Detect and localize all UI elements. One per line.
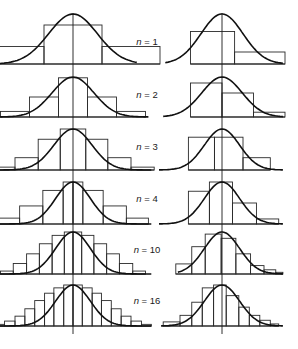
n-value: = 1 <box>142 36 158 47</box>
panel-right-n4 <box>159 172 283 226</box>
histogram-bar <box>94 244 107 274</box>
n-label: n = 3 <box>136 141 157 152</box>
histogram-bar <box>39 244 52 274</box>
panel-left-n4 <box>0 172 151 226</box>
panel-right-n2 <box>163 66 285 120</box>
n-value: = 3 <box>142 141 158 152</box>
normal-curve <box>0 232 151 274</box>
panel-left-n10 <box>0 226 151 278</box>
histogram-bar <box>52 235 64 274</box>
histogram-bar <box>73 182 83 224</box>
histogram-bar <box>88 97 117 117</box>
normal-curve <box>163 77 283 117</box>
n-label: n = 10 <box>134 244 161 255</box>
histogram-bar <box>38 139 60 170</box>
normal-curve <box>0 77 148 117</box>
n-label: n = 16 <box>134 295 161 306</box>
n-label: n = 1 <box>136 36 157 47</box>
histogram-bar <box>30 97 59 117</box>
histogram-bar <box>0 47 44 65</box>
sampling-distribution-figure: n = 1n = 2n = 3n = 4n = 10n = 16 <box>0 0 298 349</box>
histogram-bar <box>191 32 235 65</box>
n-labels: n = 1n = 2n = 3n = 4n = 10n = 16 <box>134 36 161 306</box>
n-label: n = 4 <box>136 193 157 204</box>
histogram-bar <box>188 137 214 170</box>
histogram-bar <box>64 285 73 326</box>
panel-left-n2 <box>0 66 148 120</box>
histogram-bar <box>73 232 82 274</box>
histogram-bar <box>86 139 108 170</box>
normal-curve <box>0 129 151 170</box>
panel-right-n10 <box>176 226 283 278</box>
n-label: n = 2 <box>136 89 157 100</box>
histogram-bar <box>205 234 221 274</box>
histogram-bar <box>73 285 82 326</box>
histogram-bar <box>82 288 92 326</box>
histogram-bar <box>221 238 236 274</box>
histogram-bar <box>54 288 64 326</box>
histogram-bar <box>226 296 239 326</box>
panel-left-n3 <box>0 120 154 172</box>
histogram-bar <box>43 190 63 224</box>
n-value: = 2 <box>142 89 158 100</box>
panel-right-n1 <box>165 13 285 66</box>
panel-right-n3 <box>159 120 283 172</box>
histogram-bar <box>82 235 94 274</box>
histogram-bar <box>83 190 103 224</box>
histogram-bar <box>214 137 243 170</box>
n-value: = 16 <box>139 295 160 306</box>
histogram-bar <box>236 254 251 274</box>
normal-curve <box>159 129 283 170</box>
n-value: = 10 <box>139 244 160 255</box>
histogram-bar <box>64 232 73 274</box>
normal-curve <box>159 182 283 224</box>
normal-curve <box>0 285 151 326</box>
n-value: = 4 <box>142 193 158 204</box>
histogram-bar <box>239 307 250 326</box>
histogram-bar <box>63 182 73 224</box>
histogram-bar <box>202 288 213 326</box>
normal-curve <box>165 14 283 63</box>
panel-left-n16 <box>0 278 151 334</box>
histogram-bar <box>222 93 254 117</box>
panel-right-n16 <box>161 278 283 334</box>
histogram-bar <box>214 285 227 326</box>
panels <box>0 13 285 334</box>
histogram-bar <box>251 266 264 274</box>
normal-curve <box>0 14 137 64</box>
